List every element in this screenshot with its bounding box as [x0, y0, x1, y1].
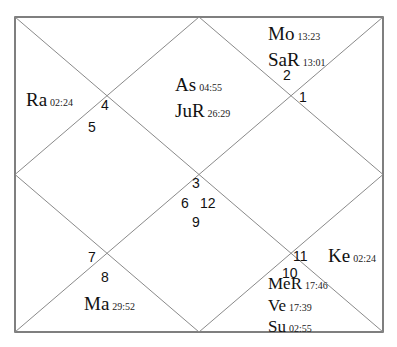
planet-degree: 13:01 [303, 57, 326, 68]
house-number-7: 7 [88, 250, 96, 264]
planet-sun: Su02:55 [268, 318, 312, 335]
planet-name: Su [268, 317, 286, 336]
planet-name: Mo [268, 23, 294, 44]
house-number-5: 5 [88, 120, 96, 134]
house-number-2: 2 [283, 68, 291, 82]
planet-mars: Ma29:52 [84, 294, 135, 313]
planet-degree: 02:55 [289, 323, 312, 334]
planet-name: As [175, 74, 196, 95]
planet-saturn: SaR13:01 [268, 50, 325, 69]
planet-name: Ra [26, 89, 47, 110]
planet-degree: 02:24 [50, 97, 73, 108]
planet-name: Ve [268, 296, 286, 315]
house-number-11: 11 [293, 249, 308, 263]
house-number-12: 12 [200, 196, 216, 210]
house-number-1: 1 [299, 90, 307, 104]
house-number-9: 9 [192, 215, 200, 229]
chart-grid [0, 0, 397, 347]
planet-degree: 04:55 [199, 82, 222, 93]
planet-name: JuR [175, 100, 205, 121]
planet-moon: Mo13:23 [268, 24, 320, 43]
planet-degree: 17:46 [305, 280, 328, 291]
house-number-3: 3 [192, 176, 200, 190]
planet-ascendant: As04:55 [175, 75, 222, 94]
planet-degree: 29:52 [112, 301, 135, 312]
planet-jupiter: JuR26:29 [175, 101, 230, 120]
planet-degree: 26:29 [208, 108, 231, 119]
planet-ketu: Ke02:24 [328, 246, 376, 265]
planet-venus: Ve17:39 [268, 297, 312, 314]
house-number-6: 6 [181, 196, 189, 210]
planet-mercury: MeR17:46 [268, 275, 328, 292]
birth-chart: 1 2 3 4 5 6 7 8 9 10 11 12 Mo13:23 SaR13… [0, 0, 397, 347]
house-number-8: 8 [101, 270, 109, 284]
planet-name: Ke [328, 245, 350, 266]
planet-degree: 17:39 [289, 302, 312, 313]
planet-degree: 13:23 [297, 31, 320, 42]
house-number-4: 4 [101, 98, 109, 112]
planet-rahu: Ra02:24 [26, 90, 73, 109]
planet-name: SaR [268, 49, 300, 70]
planet-degree: 02:24 [353, 253, 376, 264]
planet-name: Ma [84, 293, 109, 314]
planet-name: MeR [268, 274, 302, 293]
